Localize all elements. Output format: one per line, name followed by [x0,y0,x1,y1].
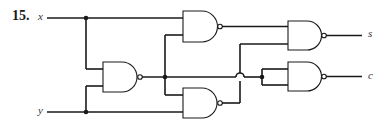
nand-gate-3 [183,88,222,118]
wire-g3-out [222,44,288,103]
nand-gate-2 [183,11,222,42]
nand-gate-s [288,21,326,50]
wire-x [47,16,183,69]
nand-gate-c [288,62,326,91]
logic-circuit-diagram [0,0,384,125]
nand-gate-1 [103,62,142,92]
